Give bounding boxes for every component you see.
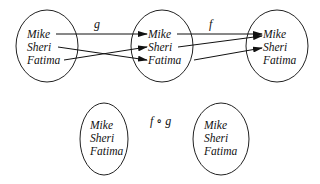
arrow-f-sheri-to-mike <box>178 36 262 47</box>
set-a-bottom-item-mike: Mike <box>89 119 113 131</box>
set-c-item-mike: Mike <box>262 28 286 40</box>
set-c-item-sheri: Sheri <box>263 41 287 53</box>
set-c-bottom-item-sheri: Sheri <box>204 132 228 144</box>
function-diagram: Mike Sheri Fatima Mike Sheri Fatima Mike… <box>0 0 320 184</box>
set-c-bottom-item-mike: Mike <box>203 119 227 131</box>
set-b-item-mike: Mike <box>147 28 171 40</box>
arrow-f-fatima-to-sheri <box>194 48 262 60</box>
set-c-bottom: Mike Sheri Fatima <box>193 103 249 175</box>
function-f-label: f <box>209 17 214 31</box>
set-c-item-fatima: Fatima <box>262 54 296 66</box>
set-a-bottom-item-fatima: Fatima <box>89 145 123 157</box>
set-a-item-mike: Mike <box>26 28 50 40</box>
set-c-bottom-item-fatima: Fatima <box>203 145 237 157</box>
set-c-top: Mike Sheri Fatima <box>246 10 308 82</box>
function-g-arrows: g <box>56 17 147 60</box>
function-g-label: g <box>94 17 100 31</box>
set-a-bottom-item-sheri: Sheri <box>90 132 114 144</box>
composition-label: f ∘ g <box>150 114 171 128</box>
set-a-item-fatima: Fatima <box>26 54 60 66</box>
function-f-arrows: f <box>177 17 262 60</box>
set-b-item-sheri: Sheri <box>148 41 172 53</box>
set-a-bottom: Mike Sheri Fatima <box>80 103 128 175</box>
set-b-item-fatima: Fatima <box>147 54 181 66</box>
set-a-item-sheri: Sheri <box>27 41 51 53</box>
set-a-top: Mike Sheri Fatima <box>16 10 78 82</box>
